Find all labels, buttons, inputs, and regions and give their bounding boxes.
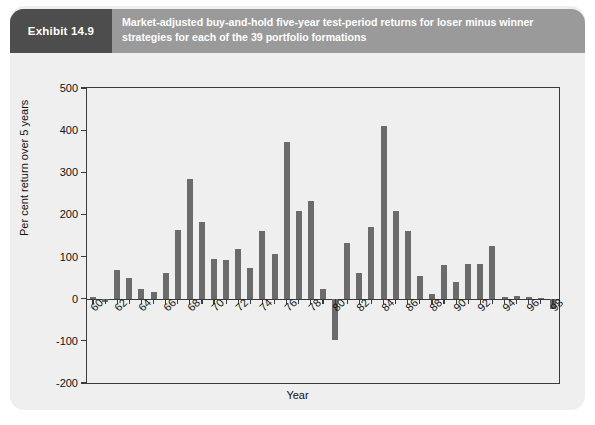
y-axis-tick	[81, 214, 87, 215]
x-axis-title: Year	[10, 389, 585, 401]
bar-series	[87, 88, 559, 383]
x-axis-tick	[250, 299, 251, 304]
bar	[259, 231, 265, 298]
bar	[126, 278, 132, 299]
x-axis-tick	[371, 299, 372, 304]
bar	[151, 292, 157, 299]
bar	[211, 259, 217, 299]
bar	[163, 273, 169, 298]
exhibit-caption: Market-adjusted buy-and-hold five-year t…	[122, 15, 575, 44]
bar	[320, 289, 326, 298]
chart-container: Per cent return over 5 years Year 500400…	[10, 55, 585, 405]
x-axis-tick	[105, 299, 106, 304]
x-axis-tick	[298, 299, 299, 304]
bar	[477, 264, 483, 299]
x-axis-tick	[443, 299, 444, 304]
bar	[441, 265, 447, 299]
plot-area: 5004003002001000-100-200 606264666870727…	[86, 87, 560, 384]
x-axis-tick	[201, 299, 202, 304]
bar	[296, 211, 302, 298]
bar	[417, 276, 423, 299]
y-axis-label: 300	[60, 166, 78, 178]
bar	[405, 231, 411, 298]
y-axis-label: -200	[56, 377, 78, 389]
x-axis-tick	[540, 299, 541, 304]
x-axis-tick	[322, 299, 323, 304]
y-axis-tick	[81, 172, 87, 173]
bar	[344, 243, 350, 299]
bar	[199, 222, 205, 299]
x-axis-tick	[129, 299, 130, 304]
exhibit-page: Exhibit 14.9 Market-adjusted buy-and-hol…	[0, 0, 595, 425]
y-axis-tick	[81, 87, 87, 88]
y-axis-label: 100	[60, 251, 78, 263]
bar	[223, 260, 229, 299]
y-axis-label: 200	[60, 208, 78, 220]
x-axis-tick	[419, 299, 420, 304]
y-axis-title: Per cent return over 5 years	[18, 100, 30, 236]
x-axis-tick	[274, 299, 275, 304]
bar	[381, 126, 387, 299]
exhibit-number-label: Exhibit 14.9	[28, 25, 94, 37]
y-axis-tick	[81, 298, 87, 299]
y-axis-tick	[81, 130, 87, 131]
bar	[356, 273, 362, 299]
x-axis-tick	[347, 299, 348, 304]
x-axis-tick	[468, 299, 469, 304]
y-axis-tick	[81, 256, 87, 257]
x-axis-tick	[492, 299, 493, 304]
exhibit-banner: Exhibit 14.9 Market-adjusted buy-and-hol…	[10, 9, 585, 53]
x-axis-tick	[153, 299, 154, 304]
y-axis-tick	[81, 382, 87, 383]
bar	[114, 270, 120, 299]
bar	[235, 249, 241, 299]
bar	[465, 264, 471, 299]
y-axis-tick	[81, 340, 87, 341]
bar	[308, 201, 314, 299]
bar	[284, 142, 290, 299]
bar	[187, 179, 193, 298]
bar	[368, 227, 374, 299]
bar	[489, 246, 495, 299]
y-axis-label: 0	[72, 293, 78, 305]
bar	[272, 254, 278, 298]
y-axis-label: 400	[60, 124, 78, 136]
exhibit-number-tab: Exhibit 14.9	[10, 9, 112, 53]
y-axis-label: 500	[60, 82, 78, 94]
x-axis-tick	[226, 299, 227, 304]
x-axis-tick	[177, 299, 178, 304]
bar	[247, 268, 253, 299]
y-axis-label: -100	[56, 335, 78, 347]
bar	[393, 211, 399, 299]
bar	[175, 230, 181, 299]
